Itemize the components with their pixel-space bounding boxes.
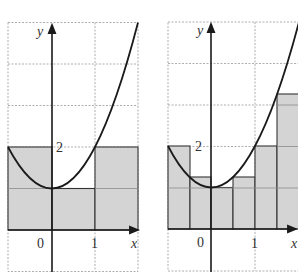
right-rect-5 xyxy=(255,146,277,229)
left-tick-2: 2 xyxy=(56,140,63,155)
right-rect-6 xyxy=(277,94,298,229)
right-origin-label: 0 xyxy=(197,235,204,250)
right-tick-2: 2 xyxy=(195,139,202,154)
left-panel: y 2 0 1 x xyxy=(8,23,138,273)
right-rect-4 xyxy=(233,177,255,229)
right-rect-1 xyxy=(168,146,190,229)
right-y-label: y xyxy=(195,23,204,38)
left-origin-label: 0 xyxy=(37,236,44,251)
left-x-label: x xyxy=(130,236,138,251)
right-panel: y 2 0 1 x xyxy=(168,22,298,272)
left-y-label: y xyxy=(35,24,44,39)
left-rectangles xyxy=(8,147,138,230)
riemann-sum-figure: y 2 0 1 x y xyxy=(0,0,298,277)
right-tick-1: 1 xyxy=(251,236,258,251)
left-tick-1: 1 xyxy=(91,236,98,251)
right-x-label: x xyxy=(290,236,298,251)
left-rect-2 xyxy=(52,189,95,231)
right-rectangles xyxy=(168,94,298,229)
right-rect-3 xyxy=(211,188,233,230)
